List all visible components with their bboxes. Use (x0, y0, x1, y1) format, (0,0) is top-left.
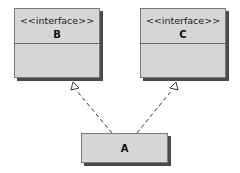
realization-a-to-c (137, 82, 178, 133)
class-box-c[interactable]: <<interface>> C (140, 8, 226, 78)
class-name: A (82, 143, 167, 154)
class-header: <<interface>> B (15, 9, 99, 44)
stereotype-label: <<interface>> (141, 15, 225, 26)
class-name: C (141, 29, 225, 41)
hollow-triangle-arrow-icon (71, 82, 79, 90)
stereotype-label: <<interface>> (15, 15, 99, 26)
class-box-a[interactable]: A (81, 133, 168, 163)
realization-a-to-b (71, 82, 112, 133)
class-header: <<interface>> C (141, 9, 225, 44)
hollow-triangle-arrow-icon (170, 82, 178, 90)
class-name: B (15, 29, 99, 41)
class-box-b[interactable]: <<interface>> B (14, 8, 100, 78)
